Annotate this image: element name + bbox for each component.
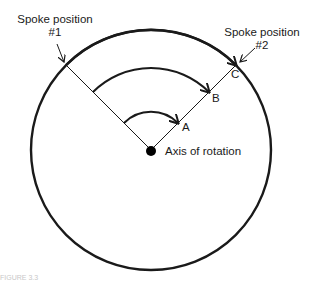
arc-b-arrow bbox=[93, 68, 209, 92]
spoke-1-label-line1: Spoke position bbox=[14, 13, 96, 26]
spoke-1-label: Spoke position #1 bbox=[14, 13, 96, 39]
point-b-label: B bbox=[212, 92, 220, 105]
spoke-2-label-line2: #2 bbox=[220, 39, 304, 52]
spoke-1-pointer-arrow bbox=[57, 44, 64, 62]
spoke-1 bbox=[66, 65, 151, 150]
axis-of-rotation-label: Axis of rotation bbox=[165, 145, 241, 158]
arc-a-arrow bbox=[124, 112, 178, 123]
spoke-2-label-line1: Spoke position bbox=[220, 26, 304, 39]
point-c-label: C bbox=[231, 68, 239, 81]
spoke-1-label-line2: #1 bbox=[14, 26, 96, 39]
point-a-label: A bbox=[182, 121, 190, 134]
figure-caption: FIGURE 3.3 bbox=[0, 274, 316, 283]
spoke-2 bbox=[151, 65, 236, 150]
axis-dot-icon bbox=[146, 146, 156, 156]
spoke-2-label: Spoke position #2 bbox=[220, 26, 304, 52]
